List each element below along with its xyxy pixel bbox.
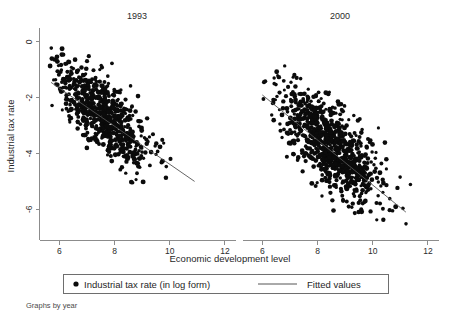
scatter-point xyxy=(86,137,90,141)
scatter-point xyxy=(80,80,83,83)
scatter-point xyxy=(341,145,345,149)
scatter-point xyxy=(85,87,88,90)
scatter-point xyxy=(335,178,339,182)
scatter-point xyxy=(322,102,326,106)
scatter-point xyxy=(341,199,345,203)
scatter-point xyxy=(79,122,83,126)
scatter-point xyxy=(291,139,296,144)
scatter-point xyxy=(60,68,64,72)
scatter-point xyxy=(137,125,140,128)
scatter-point xyxy=(66,70,70,74)
scatter-point xyxy=(345,199,349,203)
scatter-point xyxy=(65,107,69,111)
scatter-point xyxy=(325,179,329,183)
scatter-point xyxy=(353,211,357,215)
scatter-point xyxy=(363,155,367,159)
scatter-point xyxy=(103,95,107,99)
scatter-point xyxy=(64,96,68,100)
scatter-point xyxy=(306,120,310,124)
scatter-point xyxy=(117,98,120,101)
scatter-point xyxy=(106,74,110,78)
scatter-point xyxy=(308,155,313,160)
scatter-point xyxy=(262,80,266,84)
x-tick-label: 8 xyxy=(112,246,117,256)
scatter-point xyxy=(353,182,356,185)
scatter-point xyxy=(136,152,139,155)
scatter-point xyxy=(143,136,146,139)
scatter-point xyxy=(375,176,379,180)
scatter-point xyxy=(85,97,88,100)
y-tick-label: -2 xyxy=(24,94,34,102)
scatter-point xyxy=(318,153,323,158)
scatter-point xyxy=(286,132,290,136)
scatter-point xyxy=(270,113,273,116)
scatter-point xyxy=(87,78,91,82)
scatter-point xyxy=(128,108,133,113)
scatter-point xyxy=(370,177,375,182)
scatter-point xyxy=(96,127,101,132)
scatter-point xyxy=(89,117,92,120)
scatter-point xyxy=(378,202,382,206)
scatter-point xyxy=(96,103,101,108)
x-tick-label: 8 xyxy=(315,246,320,256)
scatter-point xyxy=(120,114,124,118)
scatter-point xyxy=(312,128,316,132)
scatter-point xyxy=(339,130,344,135)
scatter-point xyxy=(48,64,53,69)
scatter-point xyxy=(119,142,123,146)
scatter-point xyxy=(293,125,298,130)
scatter-point xyxy=(131,154,136,159)
scatter-point xyxy=(296,156,300,160)
scatter-point xyxy=(308,129,312,133)
scatter-point xyxy=(63,85,67,89)
scatter-point xyxy=(120,124,123,127)
scatter-point xyxy=(351,201,355,205)
scatter-point xyxy=(92,117,96,121)
scatter-point xyxy=(153,144,157,148)
legend-line-label: Fitted values xyxy=(307,279,361,290)
scatter-point xyxy=(296,134,300,138)
scatter-point xyxy=(314,184,318,188)
scatter-point xyxy=(360,128,363,131)
scatter-point xyxy=(350,148,353,151)
scatter-point xyxy=(289,99,294,104)
scatter-point xyxy=(323,90,328,95)
scatter-point xyxy=(362,166,366,170)
scatter-point xyxy=(71,67,75,71)
scatter-point xyxy=(338,146,341,149)
scatter-point xyxy=(330,198,334,202)
scatter-point xyxy=(109,132,112,135)
legend-marker-label: Industrial tax rate (in log form) xyxy=(84,279,210,290)
scatter-point xyxy=(330,145,334,149)
scatter-point xyxy=(363,199,368,204)
scatter-point xyxy=(319,109,322,112)
scatter-point xyxy=(148,164,152,168)
scatter-point xyxy=(123,97,127,101)
scatter-point xyxy=(113,114,118,119)
scatter-point xyxy=(336,121,341,126)
scatter-point xyxy=(278,122,282,126)
scatter-point xyxy=(135,171,139,175)
scatter-point xyxy=(107,125,111,129)
scatter-point xyxy=(82,133,87,138)
scatter-point xyxy=(69,71,74,76)
scatter-point xyxy=(370,150,374,154)
scatter-point xyxy=(353,194,357,198)
scatter-point xyxy=(353,189,357,193)
scatter-point xyxy=(351,176,354,179)
scatter-point xyxy=(168,157,172,161)
scatter-point xyxy=(299,92,303,96)
scatter-point xyxy=(358,135,362,139)
scatter-point xyxy=(332,134,336,138)
scatter-point xyxy=(85,59,89,63)
scatter-point xyxy=(311,164,316,169)
scatter-point xyxy=(283,64,286,67)
scatter-point xyxy=(355,134,358,137)
scatter-point xyxy=(329,129,333,133)
scatter-point xyxy=(381,207,385,211)
scatter-point xyxy=(299,77,303,81)
scatter-point xyxy=(100,64,103,67)
scatter-point xyxy=(262,97,266,101)
scatter-point xyxy=(325,134,329,138)
scatter-point xyxy=(93,137,98,142)
